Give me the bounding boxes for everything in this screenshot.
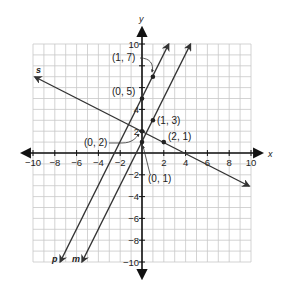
y-tick-label: −2: [128, 169, 139, 180]
point-1-7: [151, 74, 156, 79]
line-m-label: m: [72, 254, 80, 264]
point-1-3: [151, 118, 156, 123]
label-0-2: (0, 2): [84, 137, 107, 148]
line-p-label: p: [51, 254, 58, 264]
x-tick-label: 2: [161, 157, 166, 168]
y-tick-label: −8: [128, 235, 139, 246]
label-0-5: (0, 5): [112, 86, 135, 97]
coordinate-plane-figure: x y −10−8−6−4−22468101042−2−4−6−8−10 p m…: [0, 0, 286, 295]
y-tick-label: −4: [128, 191, 139, 202]
label-2-1: (2, 1): [168, 131, 191, 142]
y-tick-label: 10: [128, 39, 139, 50]
x-tick-label: 4: [183, 157, 188, 168]
label-0-1: (0, 1): [148, 173, 171, 184]
x-tick-label: −10: [25, 157, 41, 168]
label-1-3: (1, 3): [157, 115, 180, 126]
x-tick-label: 10: [246, 157, 257, 168]
x-tick-label: 8: [227, 157, 232, 168]
point-2-1: [162, 140, 167, 145]
leader-0-1: [143, 146, 150, 174]
x-tick-label: −4: [93, 157, 104, 168]
x-tick-label: −8: [49, 157, 60, 168]
point-0-1: [140, 140, 145, 145]
point-0-2: [140, 129, 145, 134]
x-tick-label: −2: [115, 157, 126, 168]
line-s-label: s: [36, 65, 41, 75]
x-axis-label: x: [267, 149, 273, 159]
y-tick-label: −10: [123, 257, 139, 268]
y-axis-label: y: [138, 14, 144, 24]
x-tick-label: −6: [71, 157, 82, 168]
y-tick-label: −6: [128, 213, 139, 224]
point-0-5: [140, 96, 145, 101]
label-1-7: (1, 7): [112, 52, 135, 63]
